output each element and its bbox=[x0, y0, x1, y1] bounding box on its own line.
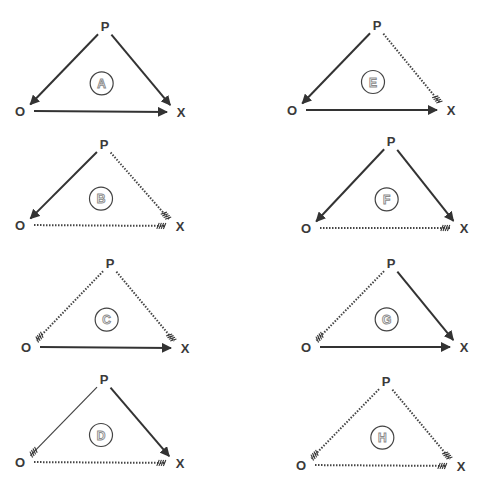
edge-o-to-x bbox=[315, 463, 447, 469]
triad-panel-b: POXB bbox=[15, 137, 185, 234]
solid-arrow bbox=[30, 152, 97, 219]
vertex-label-x: X bbox=[460, 340, 469, 355]
vertex-label-p: P bbox=[382, 374, 391, 389]
dotted-line bbox=[392, 390, 450, 459]
dotted-line bbox=[34, 462, 166, 463]
edge-p-to-o bbox=[30, 34, 98, 104]
vertex-label-p: P bbox=[100, 137, 109, 152]
panel-label-badge: G bbox=[375, 308, 398, 331]
edge-p-to-x bbox=[397, 272, 453, 340]
edge-p-to-x bbox=[111, 153, 172, 220]
dotted-line bbox=[316, 271, 384, 340]
panel-label-badge: C bbox=[95, 308, 118, 331]
solid-arrow bbox=[397, 150, 453, 221]
edge-p-to-x bbox=[397, 150, 453, 221]
vertex-label-x: X bbox=[176, 219, 185, 234]
edge-o-to-x bbox=[34, 460, 166, 466]
vertex-label-x: X bbox=[447, 103, 456, 118]
edge-p-to-x bbox=[392, 390, 452, 459]
dotted-line bbox=[311, 389, 379, 458]
solid-arrow bbox=[302, 33, 370, 103]
hatched-tip-icon bbox=[166, 334, 176, 341]
edge-p-to-o bbox=[302, 33, 370, 103]
panel-label-badge: D bbox=[90, 424, 113, 447]
triad-panel-d: POXD bbox=[15, 372, 185, 471]
vertex-label-p: P bbox=[373, 18, 382, 33]
vertex-label-o: O bbox=[15, 218, 25, 233]
edge-p-to-x bbox=[383, 34, 442, 103]
hatched-tip-icon bbox=[441, 225, 450, 231]
solid-arrow bbox=[316, 149, 384, 221]
panel-label-badge: H bbox=[371, 426, 394, 449]
vertex-label-o: O bbox=[21, 340, 31, 355]
vertex-label-x: X bbox=[177, 105, 186, 120]
solid-arrow bbox=[30, 34, 98, 104]
dotted-line bbox=[116, 272, 174, 341]
solid-arrow bbox=[40, 347, 171, 348]
edge-p-to-x bbox=[116, 272, 176, 341]
panel-label: D bbox=[97, 429, 106, 443]
edge-p-to-o bbox=[316, 149, 384, 221]
edge-o-to-x bbox=[40, 347, 171, 348]
edge-p-to-o bbox=[30, 152, 97, 219]
vertex-label-p: P bbox=[106, 256, 115, 271]
dotted-line bbox=[383, 34, 440, 103]
edge-p-to-o bbox=[311, 389, 379, 460]
vertex-label-o: O bbox=[301, 340, 311, 355]
edge-p-to-x bbox=[111, 35, 170, 105]
vertex-label-x: X bbox=[457, 459, 466, 474]
vertex-label-p: P bbox=[101, 19, 110, 34]
dotted-line bbox=[34, 225, 166, 226]
panel-label: A bbox=[97, 77, 106, 91]
vertex-label-p: P bbox=[100, 372, 109, 387]
edge-p-to-x bbox=[111, 388, 170, 457]
panel-label: C bbox=[102, 313, 111, 327]
triad-panel-a: POXA bbox=[15, 19, 186, 120]
vertex-label-p: P bbox=[387, 256, 396, 271]
triad-panel-f: POXF bbox=[301, 134, 469, 236]
vertex-label-o: O bbox=[287, 103, 297, 118]
vertex-label-p: P bbox=[387, 134, 396, 149]
edge-p-to-o bbox=[36, 271, 103, 342]
solid-arrow bbox=[111, 388, 170, 457]
triad-panel-h: POXH bbox=[296, 374, 466, 474]
thin-line bbox=[30, 387, 97, 455]
vertex-label-x: X bbox=[460, 221, 469, 236]
triad-panel-c: POXC bbox=[21, 256, 190, 356]
vertex-label-x: X bbox=[176, 456, 185, 471]
vertex-label-o: O bbox=[15, 455, 25, 470]
panel-label: F bbox=[383, 193, 390, 207]
edge-o-to-x bbox=[34, 223, 166, 229]
panel-label: E bbox=[369, 76, 377, 90]
edge-o-to-x bbox=[320, 225, 450, 231]
edge-p-to-o bbox=[30, 387, 97, 457]
vertex-label-x: X bbox=[181, 341, 190, 356]
panel-label: H bbox=[378, 431, 387, 445]
dotted-line bbox=[111, 153, 169, 220]
panel-label-badge: F bbox=[375, 188, 398, 211]
panel-label-badge: E bbox=[362, 71, 385, 94]
solid-arrow bbox=[111, 35, 170, 105]
solid-arrow bbox=[397, 272, 453, 340]
triad-panel-e: POXE bbox=[287, 18, 456, 118]
panel-label-badge: A bbox=[90, 72, 113, 95]
dotted-line bbox=[36, 271, 103, 340]
triad-diagram-grid: POXAPOXBPOXCPOXDPOXEPOXFPOXGPOXH bbox=[0, 0, 480, 486]
dotted-line bbox=[315, 465, 447, 466]
edge-p-to-o bbox=[316, 271, 384, 342]
vertex-label-o: O bbox=[296, 458, 306, 473]
vertex-label-o: O bbox=[301, 221, 311, 236]
triad-panel-g: POXG bbox=[301, 256, 469, 355]
panel-label-badge: B bbox=[90, 187, 113, 210]
solid-arrow bbox=[34, 111, 167, 112]
vertex-label-o: O bbox=[15, 104, 25, 119]
edge-o-to-x bbox=[34, 111, 167, 112]
panel-label: B bbox=[97, 192, 106, 206]
hatched-tip-icon bbox=[442, 452, 452, 459]
panel-label: G bbox=[382, 313, 391, 327]
